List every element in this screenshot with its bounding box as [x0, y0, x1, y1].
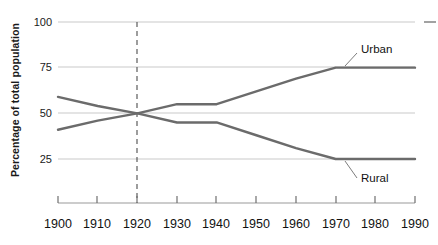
y-axis-title: Percentage of total population [9, 23, 21, 177]
xtick-label-1910: 1910 [83, 217, 111, 231]
x-axis-ticks [58, 196, 415, 203]
xtick-label-1930: 1930 [163, 217, 191, 231]
annotation-rural: Rural [345, 161, 388, 184]
leader-line-urban [345, 53, 357, 66]
xtick-label-1990: 1990 [401, 217, 429, 231]
leader-line-rural [345, 161, 357, 178]
annotation-label-urban: Urban [361, 43, 392, 55]
ytick-label-100: 100 [34, 16, 52, 28]
xtick-label-1950: 1950 [242, 217, 270, 231]
ytick-label-75: 75 [40, 61, 52, 73]
xtick-label-1970: 1970 [322, 217, 350, 231]
chart-container: 100 75 50 25 1900 1910 1920 1930 1 [0, 0, 438, 245]
x-axis-ticklabels: 1900 1910 1920 1930 1940 1950 1960 1970 … [44, 217, 429, 231]
series-line-rural [58, 97, 415, 159]
ytick-label-50: 50 [40, 107, 52, 119]
line-chart: 100 75 50 25 1900 1910 1920 1930 1 [0, 0, 438, 245]
xtick-label-1960: 1960 [282, 217, 310, 231]
y-axis-ticklabels: 100 75 50 25 [34, 16, 52, 165]
xtick-label-1980: 1980 [361, 217, 389, 231]
series-line-urban [58, 68, 415, 130]
annotation-urban: Urban [345, 43, 392, 66]
xtick-label-1920: 1920 [123, 217, 151, 231]
ytick-label-25: 25 [40, 153, 52, 165]
annotation-label-rural: Rural [361, 172, 388, 184]
y-axis-title-wrapper: Percentage of total population [0, 0, 30, 200]
xtick-label-1940: 1940 [202, 217, 230, 231]
xtick-label-1900: 1900 [44, 217, 72, 231]
